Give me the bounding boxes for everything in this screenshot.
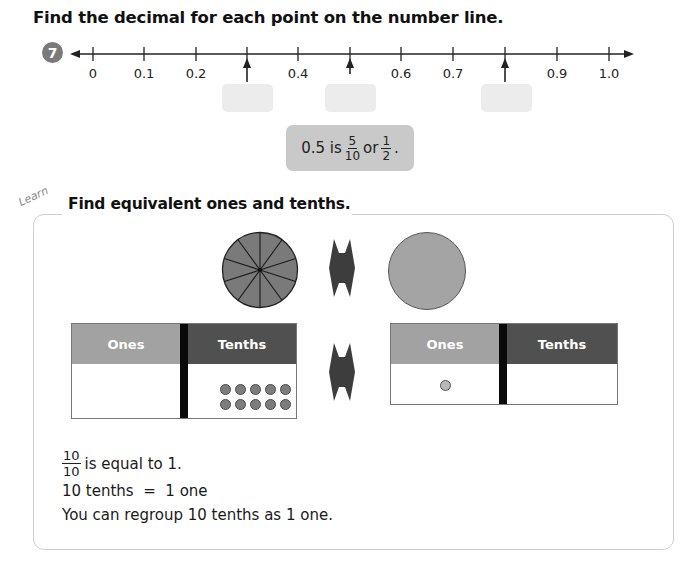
numerator: 10 <box>62 449 81 464</box>
numerator: 5 <box>348 135 358 149</box>
denominator: 10 <box>345 149 360 162</box>
place-value-chart-tenths: Ones Tenths <box>71 323 297 419</box>
double-arrow-icon <box>327 237 357 299</box>
text-line-1: 10 10 is equal to 1. <box>62 449 182 478</box>
hint-prefix: 0.5 is <box>301 139 342 157</box>
ones-header: Ones <box>391 324 499 364</box>
circle-one-whole-icon <box>388 232 466 310</box>
ones-dot <box>440 380 451 391</box>
fraction-five-tenths: 5 10 <box>345 135 360 162</box>
tick-label: 1.0 <box>599 66 620 81</box>
numerator: 1 <box>381 135 391 149</box>
circle-ten-tenths-icon <box>221 231 299 309</box>
column-divider <box>499 324 507 404</box>
place-value-chart-ones: Ones Tenths <box>390 323 618 405</box>
denominator: 2 <box>382 149 390 162</box>
fraction-one-half: 1 2 <box>381 135 391 162</box>
denominator: 10 <box>63 464 80 478</box>
left-arrowhead-icon <box>70 50 80 58</box>
right-arrowhead-icon <box>624 50 634 58</box>
tick-label: 0.6 <box>391 66 412 81</box>
tenths-header: Tenths <box>188 324 296 364</box>
learn-tag: Learn <box>17 184 51 209</box>
answer-box-3[interactable] <box>481 84 532 112</box>
text-line-3: You can regroup 10 tenths as 1 one. <box>62 506 333 524</box>
tick-label: 0.9 <box>547 66 568 81</box>
point-arrows <box>243 58 509 82</box>
tick-label: 0.7 <box>443 66 464 81</box>
learn-title: Find equivalent ones and tenths. <box>68 195 351 213</box>
tick-label: 0.1 <box>134 66 155 81</box>
double-arrow-icon <box>327 341 357 403</box>
fraction-ten-tenths: 10 10 <box>62 449 81 478</box>
answer-box-1[interactable] <box>222 84 273 112</box>
tick-label: 0.2 <box>186 66 207 81</box>
hint-box: 0.5 is 5 10 or 1 2 . <box>286 125 414 171</box>
tick-label: 0 <box>89 66 97 81</box>
answer-box-2[interactable] <box>325 84 376 112</box>
hint-middle: or <box>363 139 378 157</box>
tick-label: 0.4 <box>288 66 309 81</box>
ones-header: Ones <box>72 324 180 364</box>
column-divider <box>180 324 188 418</box>
line1-text: is equal to 1. <box>85 455 182 473</box>
hint-suffix: . <box>394 139 399 157</box>
tenths-header: Tenths <box>507 324 617 364</box>
text-line-2: 10 tenths = 1 one <box>62 482 208 500</box>
